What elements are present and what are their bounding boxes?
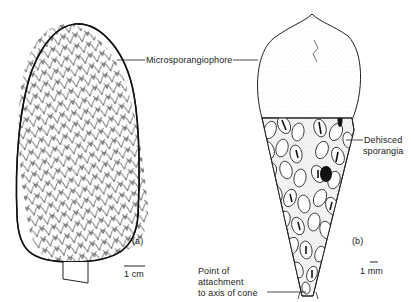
label-dehisced-line2: sporangia	[363, 146, 403, 156]
scale-bar-label-b: 1 mm	[360, 266, 383, 276]
botanical-figure: Microsporangiophore Dehisced sporangia P…	[0, 0, 411, 302]
label-attachment-line3: to axis of cone	[198, 288, 258, 298]
label-dehisced-line1: Dehisced	[364, 135, 402, 145]
panel-label-a: (a)	[132, 236, 143, 246]
sporangiophore-illustration	[250, 14, 361, 300]
label-attachment-line2: attachment	[198, 277, 244, 287]
label-attachment-line1: Point of	[198, 266, 229, 276]
scale-bar-label-a: 1 cm	[124, 269, 144, 279]
figure-drawing	[0, 0, 411, 302]
label-microsporangiophore: Microsporangiophore	[146, 55, 232, 65]
cone-illustration	[0, 0, 177, 283]
panel-label-b: (b)	[352, 236, 363, 246]
